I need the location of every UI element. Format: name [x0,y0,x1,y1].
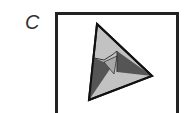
triangle-diagram [0,0,185,113]
